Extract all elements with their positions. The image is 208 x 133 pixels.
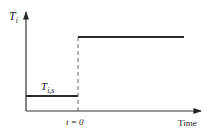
y-axis-label: Ti (9, 9, 18, 25)
step-diagram: Ti Ti,s t = 0 Time (0, 0, 208, 133)
step-time-label: t = 0 (66, 117, 84, 127)
x-axis-label: Time (178, 118, 197, 128)
low-level-label: Ti,s (41, 80, 54, 95)
